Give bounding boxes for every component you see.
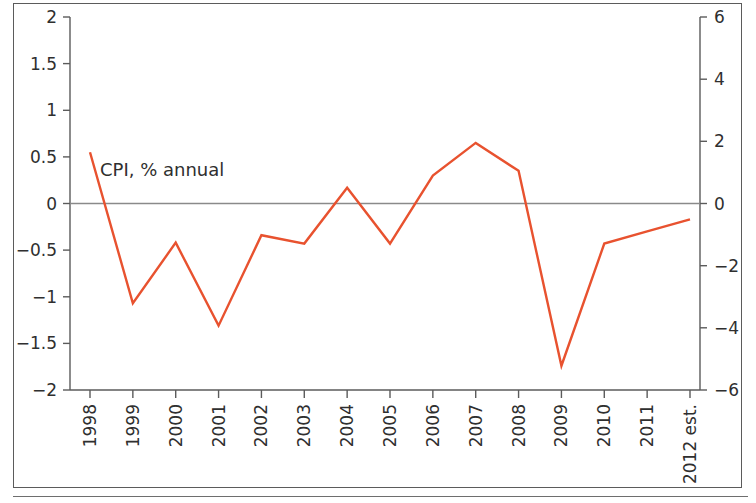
left-tick-label: −1.5 [16,333,57,353]
x-tick-label: 2010 [594,404,614,447]
right-tick-label: 2 [714,131,725,151]
right-tick-label: −4 [714,318,739,338]
x-tick-label: 1998 [80,404,100,447]
series-annotation-label: CPI, % annual [100,159,224,180]
right-axis-tick-labels: 6 4 2 0 −2 −4 −6 [714,7,739,400]
left-tick-label: 1.5 [30,54,57,74]
left-tick-label: 1 [46,100,57,120]
left-tick-label: 0.5 [30,147,57,167]
left-tick-label: 2 [46,7,57,27]
x-tick-label: 2007 [466,404,486,447]
right-tick-label: 0 [714,194,725,214]
x-tick-label: 2002 [251,404,271,447]
left-tick-label: −1 [32,287,57,307]
x-tick-label: 2005 [380,404,400,447]
x-axis-tick-labels: 1998199920002001200220032004200520062007… [80,404,700,484]
x-tick-label: 2006 [423,404,443,447]
right-axis-ticks [700,17,707,390]
left-tick-label: 0 [46,194,57,214]
x-tick-label: 2001 [209,404,229,447]
line-chart-plot: 2 1.5 1 0.5 0 −0.5 −1 −1.5 −2 6 4 2 0 −2 [0,0,756,503]
left-axis-ticks [63,17,70,390]
x-tick-label: 2009 [551,404,571,447]
right-tick-label: −2 [714,256,739,276]
left-tick-label: −2 [32,380,57,400]
right-tick-label: 6 [714,7,725,27]
left-axis-tick-labels: 2 1.5 1 0.5 0 −0.5 −1 −1.5 −2 [16,7,57,400]
left-tick-label: −0.5 [16,240,57,260]
x-axis-ticks [90,390,690,398]
x-tick-label: 2008 [509,404,529,447]
x-tick-label: 1999 [123,404,143,447]
right-tick-label: −6 [714,380,739,400]
x-tick-label: 2011 [637,404,657,447]
right-tick-label: 4 [714,69,725,89]
x-tick-label: 2004 [337,404,357,447]
x-tick-label: 2012 est. [680,404,700,484]
x-tick-label: 2003 [294,404,314,447]
chart-figure: 2 1.5 1 0.5 0 −0.5 −1 −1.5 −2 6 4 2 0 −2 [0,0,756,503]
x-tick-label: 2000 [166,404,186,447]
